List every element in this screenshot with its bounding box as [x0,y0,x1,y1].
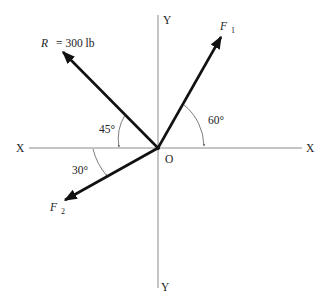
angle-label-f1: 60° [208,114,225,126]
origin-point [156,146,160,150]
angle-label-f2: 30° [72,164,89,176]
x-axis-right-label: X [306,142,315,154]
angle-label-r: 45° [99,123,116,135]
origin-label: O [165,153,173,165]
angle-arc-r [118,115,125,147]
y-axis-bottom-label: Y [161,281,170,293]
angle-arc-f1 [184,105,204,146]
vector-f1-arrow [158,37,221,148]
y-axis-top-label: Y [163,14,172,26]
vector-r-label: R = 300 lb [40,33,95,50]
angle-arc-f2 [93,149,107,176]
vector-f2-label: F 2 [49,197,65,216]
x-axis-left-label: X [16,142,25,154]
vector-f1-label: F 1 [219,16,235,35]
force-diagram: X X Y Y O R = 300 lb 45° F 1 60° F 2 30° [0,0,325,306]
